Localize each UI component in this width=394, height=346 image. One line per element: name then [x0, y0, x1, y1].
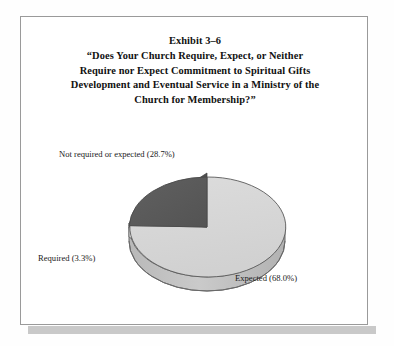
- pie-chart-svg: [21, 17, 369, 326]
- slice-not-required: [129, 177, 207, 227]
- slice-label-not-required: Not required or expected (28.7%): [59, 149, 175, 159]
- pie-top-face: [129, 177, 285, 277]
- scanned-page: Exhibit 3–6 “Does Your Church Require, E…: [0, 0, 394, 346]
- slice-label-expected: Expected (68.0%): [235, 273, 297, 283]
- figure-panel: Exhibit 3–6 “Does Your Church Require, E…: [20, 16, 368, 325]
- figure-panel-soft-shadow: [28, 326, 376, 334]
- pie-chart: Not required or expected (28.7%) Require…: [21, 17, 369, 326]
- slice-label-required: Required (3.3%): [38, 253, 95, 263]
